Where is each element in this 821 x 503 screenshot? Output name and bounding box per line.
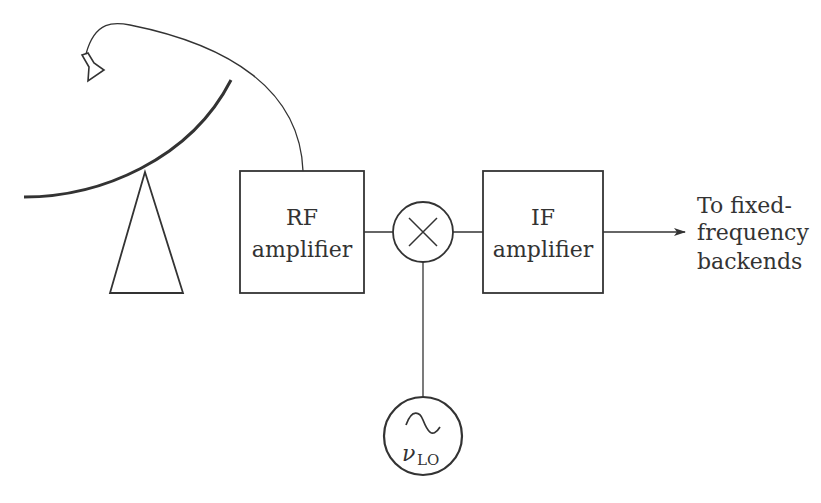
if-amplifier-label-line2: amplifier xyxy=(493,237,594,262)
if-amplifier-label-line1: IF xyxy=(531,205,555,230)
feed-cable xyxy=(86,23,303,171)
if-amplifier-block: IF amplifier xyxy=(483,171,603,293)
output-label-line3: backends xyxy=(697,249,802,274)
output-label-line2: frequency xyxy=(697,220,809,245)
local-oscillator-block: ν LO xyxy=(384,397,462,475)
sine-wave-icon xyxy=(406,413,440,433)
multiply-icon xyxy=(409,218,437,246)
mixer-block xyxy=(393,202,453,262)
rf-amplifier-label-line1: RF xyxy=(286,205,318,230)
lo-nu-symbol: ν xyxy=(402,441,415,466)
feed-horn-icon xyxy=(82,53,104,81)
rf-amplifier-block: RF amplifier xyxy=(240,171,364,293)
lo-subscript: LO xyxy=(417,451,439,469)
antenna-pedestal xyxy=(110,172,183,293)
receiver-diagram: RF amplifier IF amplifier To fixed- freq… xyxy=(0,0,821,503)
rf-amplifier-label-line2: amplifier xyxy=(252,237,353,262)
output-label-line1: To fixed- xyxy=(697,193,792,218)
output-label: To fixed- frequency backends xyxy=(697,193,809,274)
parabolic-dish xyxy=(24,80,231,197)
